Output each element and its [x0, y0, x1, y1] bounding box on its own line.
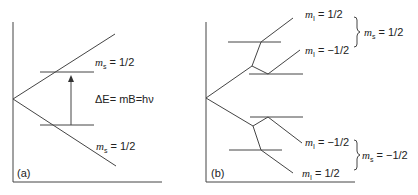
panel-b-branch-ms-up-mi-down	[252, 50, 300, 74]
panel-a-upper-label: ms = 1/2	[95, 57, 134, 70]
group-ms-down-label: ms = −1/2	[362, 150, 408, 163]
brace-ms-down	[354, 140, 360, 170]
diagram-lines	[0, 0, 418, 195]
panel-b-level-1-label: mI = 1/2	[305, 9, 343, 22]
panel-b-level-3-label: mI = −1/2	[305, 137, 349, 150]
transition-energy-label: ΔE= mB=hν	[95, 94, 154, 105]
panel-a-label: (a)	[17, 167, 30, 179]
panel-b-branch-ms-down-mi-down	[206, 98, 302, 143]
panel-b-level-2-label: mI = −1/2	[305, 45, 349, 58]
arrow-head-icon	[68, 75, 74, 82]
panel-a-lower-branch	[13, 99, 116, 166]
panel-b-branch-ms-up-mi-up	[206, 18, 293, 98]
panel-b-level-4-label: mI = 1/2	[302, 168, 340, 181]
panel-b-label: (b)	[211, 167, 224, 179]
energy-level-diagram: ms = 1/2 ΔE= mB=hν ms = 1/2 (a) mI = 1/2…	[0, 0, 418, 195]
group-ms-up-label: ms = 1/2	[364, 27, 403, 40]
panel-a-lower-label: ms = 1/2	[96, 141, 135, 154]
brace-ms-up	[354, 17, 360, 47]
